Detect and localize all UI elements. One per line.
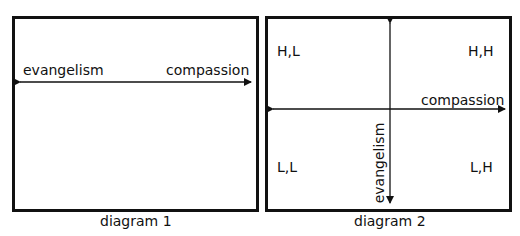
d2-compassion-label: compassion (421, 92, 504, 108)
arrows-overlay (0, 0, 520, 236)
quadrant-bottom-right-label: L,H (470, 159, 493, 175)
d1-compassion-label: compassion (166, 62, 249, 78)
diagram-2-caption: diagram 2 (354, 213, 426, 229)
d1-evangelism-label: evangelism (23, 62, 104, 78)
diagram-1-caption: diagram 1 (100, 213, 172, 229)
d2-evangelism-label: evangelism (371, 123, 387, 204)
quadrant-top-left-label: H,L (277, 43, 300, 59)
quadrant-top-right-label: H,H (468, 43, 494, 59)
quadrant-bottom-left-label: L,L (277, 159, 297, 175)
